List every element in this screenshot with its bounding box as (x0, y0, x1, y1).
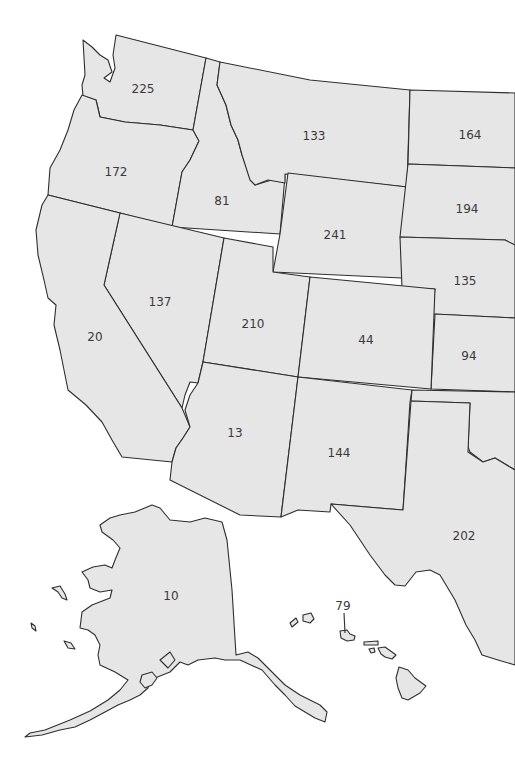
label-utah: 210 (242, 317, 265, 331)
label-oregon: 172 (105, 165, 128, 179)
label-texas: 202 (453, 529, 476, 543)
label-south-dakota: 194 (456, 202, 479, 216)
label-nebraska: 135 (454, 274, 477, 288)
hawaii-island-niihau (290, 618, 298, 627)
label-north-dakota: 164 (459, 128, 482, 142)
label-wyoming: 241 (324, 228, 347, 242)
alaska-island (140, 672, 157, 688)
hawaii-island-lanai (369, 648, 375, 653)
alaska-island (64, 641, 75, 649)
label-california: 20 (87, 330, 102, 344)
label-washington: 225 (132, 82, 155, 96)
alaska-island (52, 586, 67, 600)
state-montana[interactable] (217, 62, 410, 187)
label-new-mexico: 144 (328, 446, 351, 460)
hawaii-island-molokai (364, 641, 378, 645)
alaska-island (31, 623, 36, 631)
state-wyoming[interactable] (273, 173, 407, 278)
label-alaska: 10 (163, 589, 178, 603)
hawaii-island-big-island (396, 667, 426, 700)
label-hawaii: 79 (335, 599, 350, 613)
label-montana: 133 (303, 129, 326, 143)
label-idaho: 81 (214, 194, 229, 208)
state-alaska[interactable] (25, 505, 327, 737)
label-colorado: 44 (358, 333, 373, 347)
label-kansas: 94 (461, 349, 476, 363)
hawaii-island-oahu[interactable] (340, 630, 355, 641)
label-arizona: 13 (227, 426, 242, 440)
hawaii-island-kauai (303, 613, 314, 623)
hawaii-island-maui (378, 647, 396, 659)
label-nevada: 137 (149, 295, 172, 309)
western-us-map: 225 172 81 133 241 164 194 135 94 20 137… (0, 0, 515, 770)
